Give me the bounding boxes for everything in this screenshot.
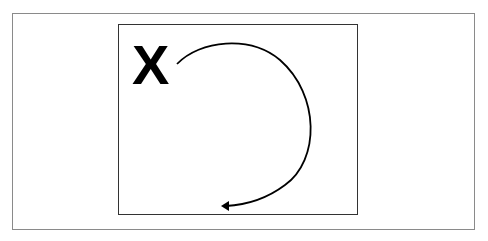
curved-arrow-icon (0, 0, 488, 241)
